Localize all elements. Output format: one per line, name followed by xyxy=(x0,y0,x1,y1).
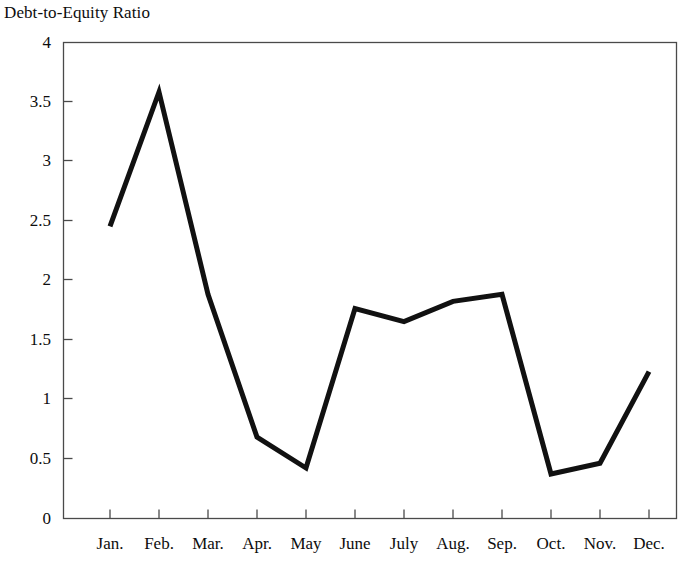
x-tick-label-sep: Sep. xyxy=(487,534,517,553)
y-tick-4: 4 xyxy=(43,33,52,52)
chart-figure: Debt-to-Equity Ratio 4 3.5 3 2.5 2 xyxy=(0,0,689,582)
x-tick-label-july: July xyxy=(390,534,419,553)
y-tick-label-1_5: 1.5 xyxy=(30,330,51,349)
y-tick-label-2_5: 2.5 xyxy=(30,211,51,230)
x-tick-label-nov: Nov. xyxy=(584,534,616,553)
y-tick-label-2: 2 xyxy=(43,270,52,289)
x-tick-label-aug: Aug. xyxy=(436,534,470,553)
x-tick-label-jan: Jan. xyxy=(97,534,124,553)
y-tick-0: 0 xyxy=(43,509,52,528)
x-tick-label-dec: Dec. xyxy=(633,534,665,553)
x-tick-label-june: June xyxy=(339,534,370,553)
x-tick-label-apr: Apr. xyxy=(242,534,272,553)
x-tick-label-may: May xyxy=(290,534,322,553)
y-tick-label-3_5: 3.5 xyxy=(30,92,51,111)
line-chart-plot: 4 3.5 3 2.5 2 1.5 xyxy=(0,0,689,582)
y-tick-label-4: 4 xyxy=(43,33,52,52)
y-tick-label-0: 0 xyxy=(43,509,52,528)
x-tick-label-feb: Feb. xyxy=(144,534,174,553)
y-tick-label-1: 1 xyxy=(43,389,52,408)
x-tick-label-oct: Oct. xyxy=(537,534,566,553)
y-tick-label-3: 3 xyxy=(43,151,52,170)
x-tick-label-mar: Mar. xyxy=(192,534,224,553)
plot-frame xyxy=(64,43,677,519)
y-tick-label-0_5: 0.5 xyxy=(30,449,51,468)
